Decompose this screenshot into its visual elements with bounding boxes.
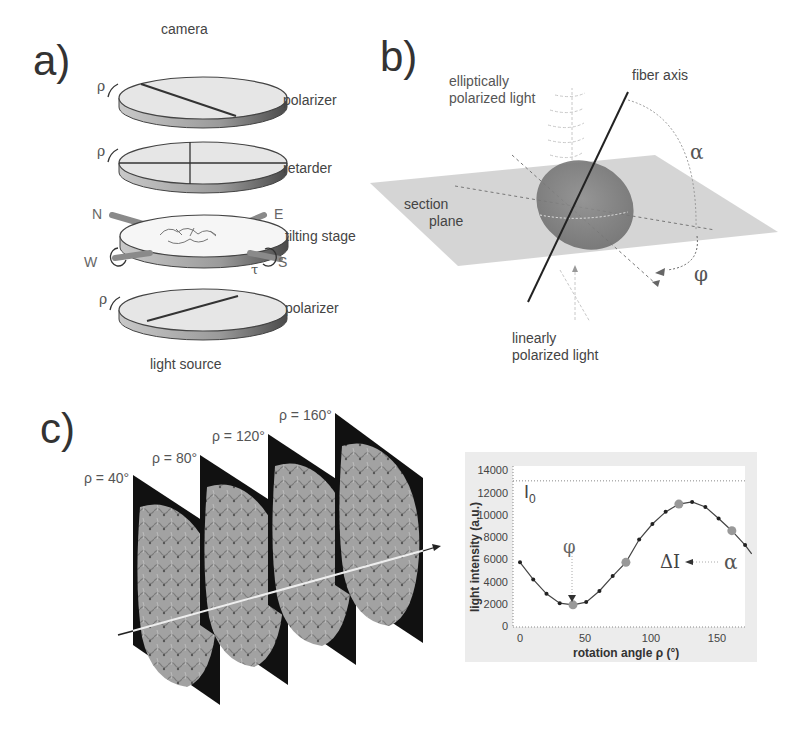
data-point bbox=[664, 510, 668, 514]
data-point bbox=[611, 574, 615, 578]
delta-i-label: ΔI bbox=[660, 551, 680, 572]
highlighted-data-point bbox=[727, 526, 736, 535]
y-tick-0: 0 bbox=[468, 620, 508, 632]
highlighted-data-point bbox=[621, 558, 630, 567]
y-tick-12000: 12000 bbox=[468, 487, 508, 499]
i0-label: I0 bbox=[524, 482, 536, 506]
data-point bbox=[531, 577, 535, 581]
data-point bbox=[703, 505, 707, 509]
y-axis-label: light intensity (a.u.) bbox=[468, 502, 482, 612]
data-point bbox=[544, 592, 548, 596]
x-tick-100: 100 bbox=[636, 632, 666, 644]
x-axis-label: rotation angle ρ (°) bbox=[573, 646, 679, 660]
intensity-chart-plot bbox=[0, 0, 809, 735]
alpha-symbol-chart: α bbox=[724, 550, 738, 574]
y-tick-14000: 14000 bbox=[468, 464, 508, 476]
data-point bbox=[690, 500, 694, 504]
data-point bbox=[637, 538, 641, 542]
x-tick-150: 150 bbox=[702, 632, 732, 644]
highlighted-data-point bbox=[674, 500, 683, 509]
data-point bbox=[518, 560, 522, 564]
i0-sub: 0 bbox=[529, 492, 536, 506]
data-point bbox=[558, 601, 562, 605]
data-point bbox=[650, 522, 654, 526]
x-tick-0: 0 bbox=[505, 632, 535, 644]
x-tick-50: 50 bbox=[570, 632, 600, 644]
data-point bbox=[717, 517, 721, 521]
data-point bbox=[584, 600, 588, 604]
phi-symbol-chart: φ bbox=[563, 536, 576, 557]
data-point bbox=[597, 589, 601, 593]
highlighted-data-point bbox=[568, 600, 577, 609]
data-point bbox=[743, 543, 747, 547]
